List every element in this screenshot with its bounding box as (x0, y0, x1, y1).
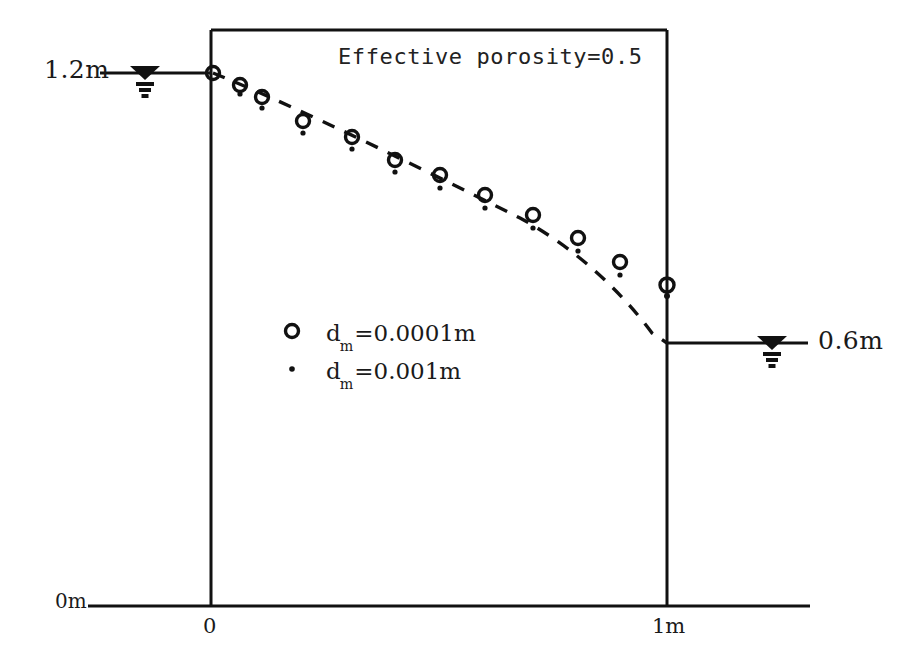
legend: dm=0.0001m dm=0.001m (278, 322, 538, 398)
porosity-annotation: Effective porosity=0.5 (338, 44, 643, 69)
legend-entry-small-dot: dm=0.001m (278, 360, 538, 398)
domain-box (211, 30, 667, 606)
upstream-water-surface (100, 66, 211, 98)
x-tick-label-left: 0 (203, 614, 216, 638)
legend-entry-open-circle: dm=0.0001m (278, 322, 538, 360)
legend-label-small-dot: dm=0.001m (326, 358, 461, 388)
small-dot-icon (278, 360, 308, 390)
seepage-figure: 1.2m 0.6m 0m 0 1m Effective porosity=0.5… (0, 0, 912, 669)
datum-label: 0m (55, 589, 87, 613)
free-surface-dashed-curve (213, 73, 667, 343)
downstream-head-label: 0.6m (818, 326, 883, 355)
x-tick-label-right: 1m (652, 614, 685, 638)
upstream-head-label: 1.2m (44, 55, 109, 84)
legend-label-open-circle: dm=0.0001m (326, 320, 476, 350)
open-circle-icon (278, 322, 308, 352)
downstream-water-surface (667, 336, 808, 368)
series-small-dot-markers (237, 91, 670, 299)
